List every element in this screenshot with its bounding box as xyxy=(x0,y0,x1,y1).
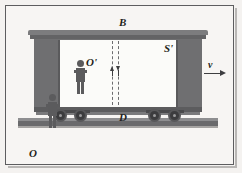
label-velocity: v xyxy=(208,60,212,70)
wheel xyxy=(74,109,87,122)
label-o-prime: O' xyxy=(86,57,97,68)
wheel xyxy=(148,109,161,122)
boxcar-wall-right-edge xyxy=(176,40,178,107)
velocity-arrow-shaft xyxy=(204,73,221,74)
observer-outside-head xyxy=(49,94,56,101)
wheel xyxy=(168,109,181,122)
light-path-stem-right xyxy=(118,70,119,76)
observer-inside-leg-left xyxy=(77,82,80,94)
label-d: D xyxy=(119,112,127,123)
observer-outside-leg-right xyxy=(53,116,56,128)
diagram-scene: B S' O' D O v xyxy=(6,6,233,164)
observer-outside-torso xyxy=(48,102,57,116)
figure-frame-shadow-bottom xyxy=(8,166,237,168)
observer-outside-figure xyxy=(46,94,59,128)
observer-inside-head xyxy=(77,60,84,67)
figure-root: B S' O' D O v xyxy=(0,0,242,173)
observer-inside-leg-right xyxy=(81,82,84,94)
label-o: O xyxy=(29,148,37,159)
velocity-arrow-head xyxy=(220,70,226,76)
observer-outside-leg-left xyxy=(49,116,52,128)
figure-frame-shadow-right xyxy=(235,8,237,168)
observer-inside-torso xyxy=(76,68,85,82)
light-path-stem-left xyxy=(112,70,113,76)
label-b: B xyxy=(119,17,126,28)
label-s-prime: S' xyxy=(164,43,173,54)
